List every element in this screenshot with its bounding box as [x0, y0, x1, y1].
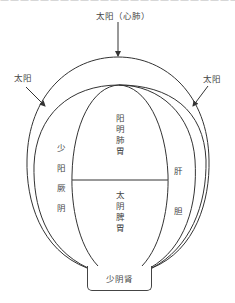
- left-column-label: 少 阳 厥 阴: [55, 138, 67, 218]
- upper-center-label: 阳 明 肺 胃: [114, 113, 126, 157]
- shaoyin-kidney-box: 少阴肾: [87, 266, 152, 291]
- top-label: 太阳（心肺）: [96, 11, 150, 21]
- bottom-box-label: 少阴肾: [106, 272, 133, 284]
- right-column-label: 肝 胆: [172, 151, 184, 231]
- right-label: 太阳: [203, 74, 221, 84]
- right-inner-arch: [119, 85, 206, 268]
- left-label: 太阳: [14, 73, 32, 83]
- right-arrow: [193, 86, 208, 106]
- lower-center-label: 太 阴 脾 胃: [114, 190, 126, 234]
- left-arrow: [26, 87, 45, 106]
